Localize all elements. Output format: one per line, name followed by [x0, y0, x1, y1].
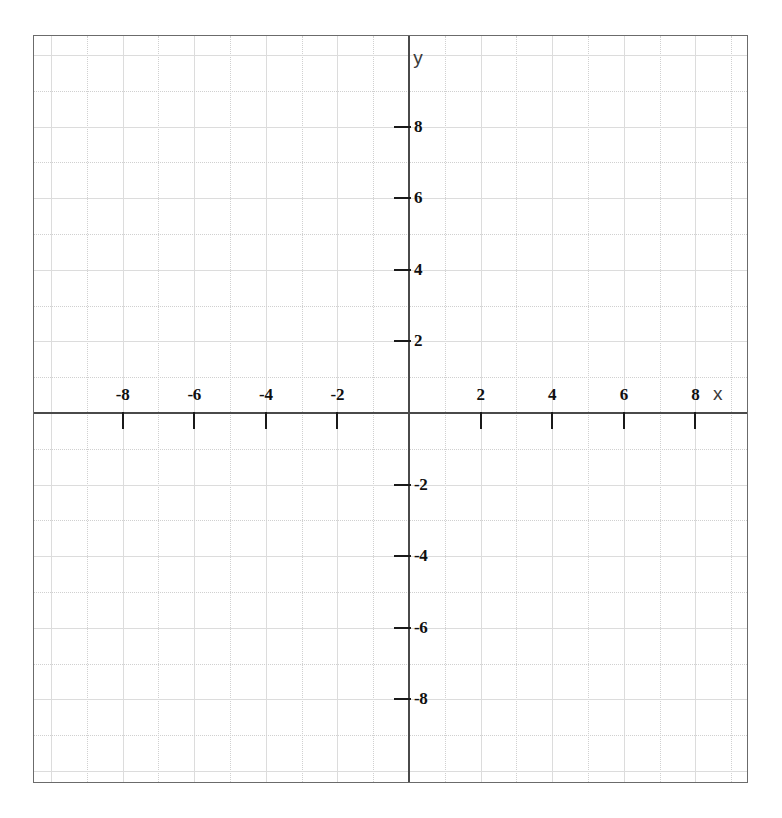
gridline-horizontal	[34, 270, 747, 271]
gridline-horizontal	[34, 771, 747, 772]
gridline-vertical	[624, 36, 625, 782]
x-tick-label: -6	[187, 385, 201, 405]
x-tick-label: -8	[116, 385, 130, 405]
x-axis-tick	[551, 412, 553, 429]
gridline-vertical	[660, 36, 661, 782]
x-axis-tick	[480, 412, 482, 429]
x-axis-tick	[193, 412, 195, 429]
gridline-vertical	[516, 36, 517, 782]
y-tick-label: 2	[414, 331, 422, 351]
gridline-vertical	[194, 36, 195, 782]
gridline-vertical	[266, 36, 267, 782]
gridline-horizontal	[34, 198, 747, 199]
gridline-horizontal	[34, 735, 747, 736]
gridline-vertical	[230, 36, 231, 782]
grid-layer	[34, 36, 747, 782]
gridline-vertical	[337, 36, 338, 782]
y-axis-tick	[394, 484, 411, 486]
gridline-horizontal	[34, 55, 747, 56]
gridline-vertical	[695, 36, 696, 782]
y-axis-tick	[394, 555, 411, 557]
gridline-horizontal	[34, 520, 747, 521]
x-axis-tick	[623, 412, 625, 429]
x-tick-label: 4	[548, 385, 556, 405]
gridline-vertical	[158, 36, 159, 782]
gridline-horizontal	[34, 91, 747, 92]
gridline-vertical	[445, 36, 446, 782]
x-tick-label: -2	[331, 385, 345, 405]
gridline-horizontal	[34, 485, 747, 486]
gridline-horizontal	[34, 377, 747, 378]
gridline-horizontal	[34, 592, 747, 593]
y-axis-label: y	[413, 47, 423, 69]
x-axis-tick	[694, 412, 696, 429]
gridline-horizontal	[34, 556, 747, 557]
gridline-horizontal	[34, 162, 747, 163]
y-tick-label: 4	[414, 260, 422, 280]
gridline-horizontal	[34, 234, 747, 235]
x-tick-label: 8	[691, 385, 699, 405]
gridline-horizontal	[34, 449, 747, 450]
gridline-vertical	[481, 36, 482, 782]
x-axis-line	[34, 412, 747, 414]
gridline-vertical	[552, 36, 553, 782]
gridline-vertical	[731, 36, 732, 782]
gridline-vertical	[123, 36, 124, 782]
y-axis-line	[408, 36, 410, 782]
gridline-horizontal	[34, 341, 747, 342]
x-tick-label: 6	[620, 385, 628, 405]
y-tick-label: 8	[414, 117, 422, 137]
y-tick-label: 6	[414, 188, 422, 208]
x-axis-label: x	[713, 383, 723, 405]
gridline-horizontal	[34, 127, 747, 128]
gridline-vertical	[87, 36, 88, 782]
gridline-vertical	[373, 36, 374, 782]
x-tick-label: 2	[476, 385, 484, 405]
y-tick-label: -2	[414, 475, 428, 495]
x-tick-label: -4	[259, 385, 273, 405]
y-axis-tick	[394, 269, 411, 271]
y-axis-tick	[394, 698, 411, 700]
y-axis-tick	[394, 340, 411, 342]
y-axis-tick	[394, 627, 411, 629]
coordinate-grid-page: -8-6-4-22468-8-6-4-22468 y x	[0, 0, 782, 818]
gridline-horizontal	[34, 306, 747, 307]
y-tick-label: -4	[414, 546, 428, 566]
y-axis-tick	[394, 197, 411, 199]
gridline-horizontal	[34, 664, 747, 665]
x-axis-tick	[122, 412, 124, 429]
y-tick-label: -6	[414, 618, 428, 638]
gridline-vertical	[51, 36, 52, 782]
gridline-vertical	[302, 36, 303, 782]
y-axis-tick	[394, 126, 411, 128]
plot-frame: -8-6-4-22468-8-6-4-22468 y x	[33, 35, 748, 783]
x-axis-tick	[336, 412, 338, 429]
y-tick-label: -8	[414, 689, 428, 709]
gridline-horizontal	[34, 699, 747, 700]
x-axis-tick	[265, 412, 267, 429]
gridline-vertical	[588, 36, 589, 782]
gridline-horizontal	[34, 628, 747, 629]
